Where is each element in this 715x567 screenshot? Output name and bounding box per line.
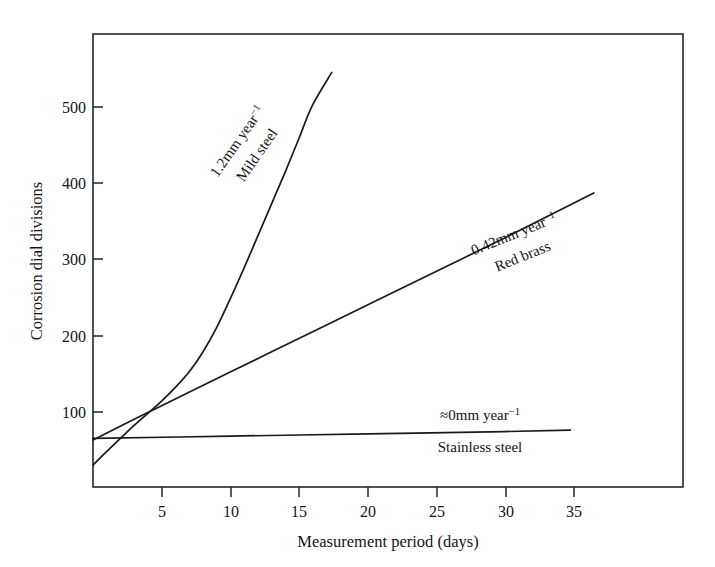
plot-frame bbox=[93, 34, 683, 487]
figure-root: 500 400 300 200 100 5 10 15 20 25 30 35 bbox=[0, 0, 715, 567]
annotation-red-brass: 0.42mm year−1 Red brass bbox=[468, 209, 567, 281]
x-tick-label-5: 5 bbox=[158, 503, 166, 520]
series-line-stainless-steel bbox=[93, 430, 570, 438]
x-axis-ticks bbox=[162, 487, 574, 497]
x-tick-label-25: 25 bbox=[429, 503, 445, 520]
x-tick-label-15: 15 bbox=[291, 503, 307, 520]
x-tick-label-30: 30 bbox=[498, 503, 514, 520]
annotation-stainless-steel-rate-text: ≈0mm year bbox=[440, 407, 509, 423]
annotation-stainless-steel-exponent: −1 bbox=[509, 406, 520, 417]
annotation-stainless-steel-rate: ≈0mm year−1 bbox=[440, 406, 520, 423]
series-line-mild-steel bbox=[93, 72, 332, 465]
y-tick-label-200: 200 bbox=[62, 328, 86, 345]
x-axis-tick-labels: 5 10 15 20 25 30 35 bbox=[158, 503, 582, 520]
annotation-stainless-steel: ≈0mm year−1 Stainless steel bbox=[438, 406, 523, 455]
x-tick-label-35: 35 bbox=[566, 503, 582, 520]
x-axis-title: Measurement period (days) bbox=[297, 532, 478, 551]
y-axis-title: Corrosion dial divisions bbox=[27, 182, 46, 341]
corrosion-chart: 500 400 300 200 100 5 10 15 20 25 30 35 bbox=[0, 0, 715, 567]
y-tick-label-100: 100 bbox=[62, 404, 86, 421]
x-tick-label-20: 20 bbox=[360, 503, 376, 520]
y-tick-label-300: 300 bbox=[62, 251, 86, 268]
y-tick-label-400: 400 bbox=[62, 175, 86, 192]
y-axis-tick-labels: 500 400 300 200 100 bbox=[62, 99, 86, 421]
y-axis-ticks bbox=[93, 107, 103, 412]
annotation-stainless-steel-name: Stainless steel bbox=[438, 439, 523, 455]
annotation-mild-steel: 1.2mm year−1 Mild steel bbox=[206, 102, 287, 193]
x-tick-label-10: 10 bbox=[223, 503, 239, 520]
y-tick-label-500: 500 bbox=[62, 99, 86, 116]
